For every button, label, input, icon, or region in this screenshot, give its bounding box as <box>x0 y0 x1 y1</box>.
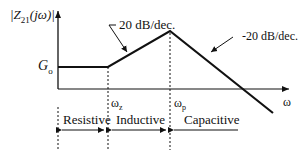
falling-slope-pointer <box>211 37 233 52</box>
y-axis-label: |Z21(jω)| <box>10 8 55 25</box>
x-axis-label: ω <box>283 96 291 108</box>
rising-slope-label: 20 dB/dec. <box>119 18 175 31</box>
g0-label: Go <box>38 59 53 76</box>
region-capacitive-label: Capacitive <box>184 113 240 126</box>
region-resistive-label: Resistive <box>63 113 111 126</box>
region-inductive-label: Inductive <box>116 113 165 126</box>
omega-p-label: ωp <box>174 97 186 112</box>
impedance-bode-diagram: |Z21(jω)| Go ω 20 dB/dec. -20 dB/dec. ωz… <box>0 0 305 158</box>
omega-z-label: ωz <box>111 97 122 112</box>
falling-slope-label: -20 dB/dec. <box>242 30 298 42</box>
magnitude-curve <box>58 31 273 113</box>
